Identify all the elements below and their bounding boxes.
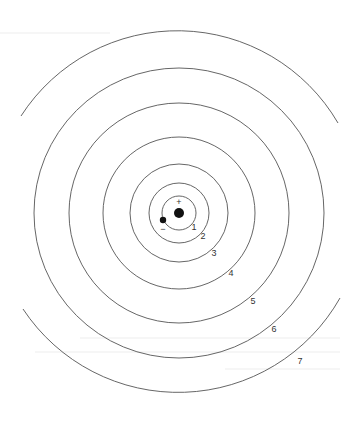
diagram-canvas: + − 1234567 xyxy=(0,0,359,424)
orbit-label-2: 2 xyxy=(200,231,205,241)
orbit-label-1: 1 xyxy=(191,222,196,232)
orbit-labels: 1234567 xyxy=(191,222,302,366)
show-through-text xyxy=(0,33,340,369)
orbit-7-top-arc xyxy=(21,31,338,123)
electron xyxy=(160,217,166,223)
bohr-atom-diagram: + − 1234567 xyxy=(0,0,359,424)
nucleus-plus-sign: + xyxy=(176,197,181,207)
orbit-label-5: 5 xyxy=(250,296,255,306)
nucleus xyxy=(174,208,184,218)
orbit-label-3: 3 xyxy=(211,248,216,258)
orbit-label-7: 7 xyxy=(297,356,302,366)
orbit-label-4: 4 xyxy=(228,268,233,278)
electron-minus-sign: − xyxy=(160,224,165,234)
orbit-label-6: 6 xyxy=(271,324,276,334)
orbit-7-bottom-arc xyxy=(23,298,340,392)
